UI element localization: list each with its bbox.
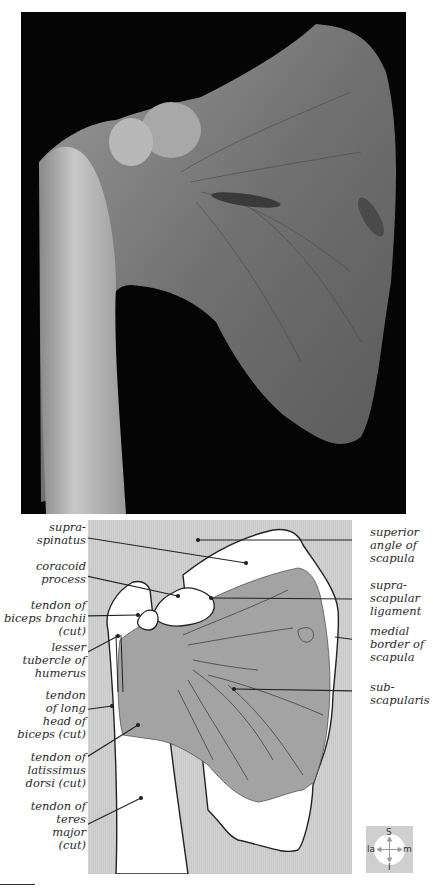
compass-inferior: I [388, 863, 391, 872]
photo-illustration [21, 12, 406, 514]
diagram-panel [88, 520, 352, 874]
compass-superior: S [386, 828, 392, 837]
dissection-photograph [21, 12, 406, 514]
label-suprascapular-ligament: supra- scapular ligament [370, 579, 432, 618]
label-coracoid-process: coracoid process [0, 560, 86, 586]
label-tendon-long-head-biceps: tendon of long head of biceps (cut) [0, 689, 86, 741]
compass-medial: m [403, 845, 412, 854]
line-drawing [88, 520, 352, 874]
label-tendon-biceps-brachii: tendon of biceps brachii (cut) [0, 599, 86, 638]
label-medial-border-scapula: medial border of scapula [370, 625, 432, 664]
label-tendon-latissimus-dorsi: tendon of latissimus dorsi (cut) [0, 751, 86, 790]
label-superior-angle-scapula: superior angle of scapula [370, 526, 432, 565]
label-supraspinatus: supra- spinatus [0, 521, 86, 547]
compass-lateral: la [367, 845, 375, 854]
label-subscapularis: sub- scapularis [370, 681, 432, 707]
footnote-rule [0, 884, 35, 885]
orientation-compass: S I la m [366, 826, 413, 873]
label-lesser-tubercle: lesser tubercle of humerus [0, 641, 86, 680]
label-tendon-teres-major: tendon of teres major (cut) [0, 800, 86, 852]
